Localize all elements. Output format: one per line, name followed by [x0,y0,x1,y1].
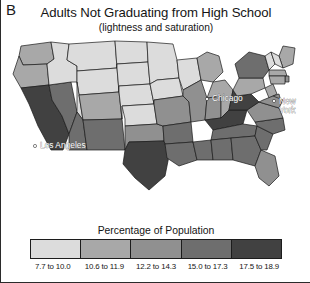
state-nm[interactable]: New Mexico [83,119,125,150]
state-wy[interactable]: Wyoming [77,68,119,95]
legend-swatch-1[interactable] [81,240,131,258]
map-svg: WashingtonOregonCaliforniaNevadaIdahoMon… [7,38,307,220]
state-wa[interactable]: Washington [19,42,54,65]
legend-label-4: 17.5 to 18.9 [233,262,285,271]
chart-subtitle: (lightness and saturation) [1,22,310,34]
city-label-los-angeles: Los Angeles [40,140,86,150]
state-ma[interactable]: Massachusetts [269,70,287,76]
city-dot-los-angeles[interactable] [33,144,36,147]
state-la[interactable]: Louisiana [165,142,197,166]
legend-swatch-4[interactable] [232,240,281,258]
city-dot-new-york[interactable] [272,99,275,102]
legend-label-3: 15.0 to 17.3 [182,262,234,271]
state-ri[interactable]: Rhode Island [285,76,289,82]
legend-swatch-0[interactable] [31,240,81,258]
legend-swatch-3[interactable] [182,240,232,258]
legend-color-bar [30,239,282,259]
city-label-new-york: NewYork [279,96,297,115]
legend-label-1: 10.6 to 11.9 [79,262,131,271]
legend-labels: 7.7 to 10.010.6 to 11.912.2 to 14.315.0 … [27,262,285,271]
state-tx[interactable]: Texas [123,141,169,190]
states-layer: WashingtonOregonCaliforniaNevadaIdahoMon… [13,41,295,190]
state-ms[interactable]: Mississippi [193,140,213,160]
legend-label-2: 12.2 to 14.3 [130,262,182,271]
legend-title: Percentage of Population [1,225,310,236]
title-block: Adults Not Graduating from High School (… [1,6,310,34]
map-legend: Percentage of Population 7.7 to 10.010.6… [1,225,310,271]
page-title: Adults Not Graduating from High School [1,6,310,21]
city-label-chicago: Chicago [212,93,243,103]
state-ar[interactable]: Arkansas [163,122,193,144]
figure-panel-b: B Adults Not Graduating from High School… [0,0,310,283]
legend-label-0: 7.7 to 10.0 [27,262,79,271]
state-mi[interactable]: Michigan [197,52,223,82]
legend-swatch-2[interactable] [131,240,181,258]
state-mo[interactable]: Missouri [154,96,191,126]
state-co[interactable]: Colorado [79,92,122,120]
state-ks[interactable]: Kansas [122,104,157,126]
city-dot-chicago[interactable] [205,97,208,100]
state-ny[interactable]: New York [235,52,269,78]
state-ct[interactable]: Connecticut [269,76,285,84]
state-al[interactable]: Alabama [211,138,233,160]
choropleth-map: WashingtonOregonCaliforniaNevadaIdahoMon… [7,38,307,220]
state-mn[interactable]: Minnesota [147,42,179,84]
